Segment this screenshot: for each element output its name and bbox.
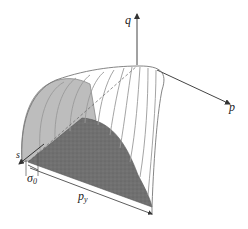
sigma0-label: σ0 <box>27 172 37 186</box>
q-axis-label: q <box>125 14 131 26</box>
p-axis-label: p <box>229 101 235 113</box>
yield-surface-drawing <box>0 0 248 229</box>
s-axis-label: s <box>16 150 20 160</box>
p-axis <box>157 70 230 104</box>
yield-surface-diagram: · · · · · · · · · · · · · · · · · <box>0 0 248 229</box>
py-label: py <box>78 190 88 204</box>
